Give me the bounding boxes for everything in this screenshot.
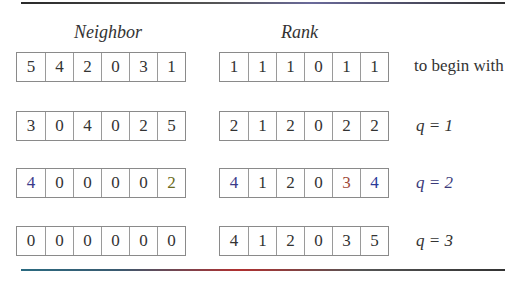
rank-cell: 1 bbox=[248, 169, 276, 197]
rank-cell: 0 bbox=[304, 169, 332, 197]
neighbor-array-row-3: 0 0 0 0 0 0 bbox=[16, 226, 186, 256]
neighbor-heading: Neighbor bbox=[74, 22, 142, 43]
neighbor-cell: 3 bbox=[17, 112, 45, 140]
neighbor-cell: 0 bbox=[101, 227, 129, 255]
neighbor-cell: 0 bbox=[45, 227, 73, 255]
rank-array-row-2: 4 1 2 0 3 4 bbox=[219, 168, 389, 198]
neighbor-cell: 0 bbox=[17, 227, 45, 255]
rank-cell: 2 bbox=[276, 227, 304, 255]
neighbor-cell: 0 bbox=[129, 169, 157, 197]
row-label: q = 3 bbox=[416, 231, 453, 251]
rank-cell: 4 bbox=[220, 169, 248, 197]
rank-cell: 5 bbox=[360, 227, 388, 255]
rank-cell: 2 bbox=[360, 112, 388, 140]
row-label: to begin with bbox=[414, 56, 504, 76]
neighbor-cell: 0 bbox=[73, 227, 101, 255]
rank-cell: 1 bbox=[248, 112, 276, 140]
neighbor-cell: 3 bbox=[129, 53, 157, 81]
rank-cell: 3 bbox=[332, 227, 360, 255]
rank-cell: 1 bbox=[332, 53, 360, 81]
neighbor-cell: 4 bbox=[73, 112, 101, 140]
neighbor-array-row-0: 5 4 2 0 3 1 bbox=[16, 52, 186, 82]
neighbor-cell: 0 bbox=[101, 112, 129, 140]
neighbor-cell: 2 bbox=[129, 112, 157, 140]
rank-array-row-3: 4 1 2 0 3 5 bbox=[219, 226, 389, 256]
rank-cell: 0 bbox=[304, 227, 332, 255]
neighbor-array-row-2: 4 0 0 0 0 2 bbox=[16, 168, 186, 198]
neighbor-cell: 4 bbox=[45, 53, 73, 81]
neighbor-cell: 5 bbox=[157, 112, 185, 140]
neighbor-cell: 0 bbox=[157, 227, 185, 255]
neighbor-cell: 0 bbox=[45, 112, 73, 140]
rank-cell: 2 bbox=[276, 112, 304, 140]
neighbor-cell: 4 bbox=[17, 169, 45, 197]
bottom-rule bbox=[21, 269, 505, 271]
neighbor-cell: 0 bbox=[129, 227, 157, 255]
rank-cell: 1 bbox=[360, 53, 388, 81]
top-rule bbox=[21, 2, 505, 4]
neighbor-cell: 0 bbox=[101, 169, 129, 197]
rank-cell: 3 bbox=[332, 169, 360, 197]
rank-cell: 4 bbox=[360, 169, 388, 197]
rank-cell: 1 bbox=[276, 53, 304, 81]
neighbor-cell: 2 bbox=[73, 53, 101, 81]
neighbor-cell: 2 bbox=[157, 169, 185, 197]
rank-cell: 0 bbox=[304, 53, 332, 81]
neighbor-cell: 1 bbox=[157, 53, 185, 81]
row-label: q = 1 bbox=[416, 116, 453, 136]
rank-cell: 1 bbox=[248, 53, 276, 81]
rank-cell: 2 bbox=[276, 169, 304, 197]
rank-heading: Rank bbox=[281, 22, 318, 43]
rank-cell: 2 bbox=[220, 112, 248, 140]
rank-cell: 1 bbox=[248, 227, 276, 255]
rank-array-row-1: 2 1 2 0 2 2 bbox=[219, 111, 389, 141]
neighbor-cell: 0 bbox=[101, 53, 129, 81]
rank-cell: 1 bbox=[220, 53, 248, 81]
rank-cell: 0 bbox=[304, 112, 332, 140]
neighbor-array-row-1: 3 0 4 0 2 5 bbox=[16, 111, 186, 141]
neighbor-cell: 5 bbox=[17, 53, 45, 81]
rank-array-row-0: 1 1 1 0 1 1 bbox=[219, 52, 389, 82]
rank-cell: 4 bbox=[220, 227, 248, 255]
neighbor-cell: 0 bbox=[73, 169, 101, 197]
row-label: q = 2 bbox=[416, 173, 453, 193]
neighbor-cell: 0 bbox=[45, 169, 73, 197]
rank-cell: 2 bbox=[332, 112, 360, 140]
